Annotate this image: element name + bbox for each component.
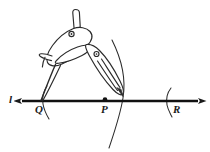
compass-hinge-screw-inner — [71, 33, 73, 35]
point-label-r: R — [173, 104, 180, 115]
compass-top-knob — [73, 10, 80, 30]
line-label-l: l — [9, 94, 12, 105]
point-label-q: Q — [35, 104, 43, 115]
compass-thumb-lever-tail — [42, 57, 45, 67]
compass-thumb-lever — [39, 54, 52, 61]
point-label-p: P — [101, 104, 108, 115]
figure-canvas — [0, 0, 210, 152]
compass-construction-figure: l Q P R — [0, 0, 210, 152]
compass-needle-leg — [41, 65, 56, 101]
compass-needle-leg-edge — [43, 66, 61, 102]
compass-pencil-clamp-screw-inner — [96, 53, 98, 55]
arc-right-tick — [167, 88, 172, 117]
compass-tool — [39, 10, 123, 102]
point-dot-p — [103, 97, 108, 102]
